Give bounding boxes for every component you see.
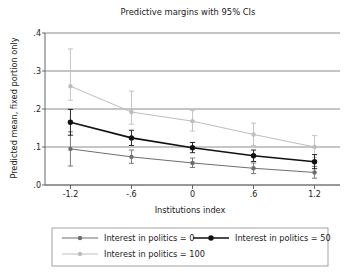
data-point: [251, 153, 256, 158]
data-point: [190, 145, 195, 150]
data-point: [312, 159, 317, 164]
x-tick-label: -1.2: [63, 190, 79, 199]
data-point: [190, 119, 194, 123]
data-point: [190, 161, 194, 165]
x-tick-label: 1.2: [308, 190, 321, 199]
data-point: [68, 147, 72, 151]
legend-marker: [78, 252, 82, 256]
y-tick-label: .0: [33, 181, 41, 190]
y-tick-label: .1: [33, 143, 41, 152]
x-tick-label: 0: [190, 190, 195, 199]
y-tick-label: .3: [33, 67, 41, 76]
legend-label: Interest in politics = 100: [104, 249, 205, 259]
data-point: [68, 84, 72, 88]
x-tick-label: -.6: [126, 190, 137, 199]
x-tick-label: .6: [250, 190, 258, 199]
chart-figure: Predictive margins with 95% CIs Predicte…: [0, 0, 358, 274]
predictive-margins-chart: Predictive margins with 95% CIs Predicte…: [0, 0, 358, 274]
data-point: [312, 145, 316, 149]
x-axis-title: Institutions index: [155, 205, 226, 215]
y-tick-label: .2: [33, 105, 41, 114]
data-point: [129, 135, 134, 140]
data-point: [129, 155, 133, 159]
data-point: [312, 170, 316, 174]
data-point: [251, 166, 255, 170]
y-tick-label: .4: [33, 29, 41, 38]
legend-marker: [78, 236, 82, 240]
legend-label: Interest in politics = 0: [104, 233, 195, 243]
y-axis-title: Predicted mean, fixed portion only: [9, 37, 19, 178]
chart-title: Predictive margins with 95% CIs: [121, 7, 256, 17]
legend-marker: [208, 235, 213, 240]
data-point: [129, 110, 133, 114]
legend-label: Interest in politics = 50: [235, 233, 331, 243]
data-point: [68, 120, 73, 125]
data-point: [251, 132, 255, 136]
